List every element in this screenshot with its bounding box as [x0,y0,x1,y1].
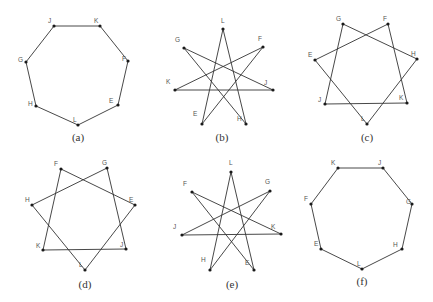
vertex-label: F [183,180,187,187]
vertex-G [268,189,271,192]
vertex-label: L [361,115,365,122]
vertex-label: L [221,17,225,24]
edge-K-J [325,103,407,104]
edge-L-H [32,205,85,270]
panel-caption: (d) [79,278,92,291]
vertex-label: G [336,15,341,22]
vertex-label: K [399,94,404,101]
vertex-F [126,59,129,62]
vertex-label: L [73,116,77,123]
panel-f: KJGHLEF(f) [304,159,414,288]
vertex-H [244,122,247,125]
vertex-label: E [129,196,134,203]
vertex-label: J [378,159,381,166]
vertex-label: H [25,196,30,203]
vertex-J [381,166,384,169]
panel-a: JKFELHG(a) [18,17,130,144]
vertex-E [313,58,316,61]
vertex-H [208,268,211,271]
vertex-G [105,166,108,169]
edge-G-J [26,26,54,62]
vertex-label: J [173,223,176,230]
vertex-K [336,166,339,169]
vertex-L [221,27,224,30]
vertex-label: G [406,198,411,205]
vertex-label: L [229,159,233,166]
vertex-H [34,104,37,107]
vertex-L [229,170,232,173]
vertex-label: F [258,35,262,42]
vertex-F [386,22,389,25]
vertex-H [415,57,418,60]
vertex-label: J [120,241,123,248]
vertex-F [261,45,264,48]
panel-caption: (e) [226,278,239,291]
vertex-K [279,232,282,235]
vertex-H [30,203,33,206]
vertex-label: F [54,160,58,167]
edge-E-F [315,24,388,60]
vertex-label: H [411,50,416,57]
edge-F-E [202,47,263,124]
vertex-label: K [331,159,336,166]
edge-E-L [202,29,223,124]
vertex-label: E [314,240,319,247]
vertex-J [124,247,127,250]
vertex-label: J [318,96,321,103]
vertex-G [182,46,185,49]
vertex-L [360,267,363,270]
edge-G-J [184,48,273,90]
edge-G-J [107,168,126,249]
panel-c: GFHKLJE(c) [308,15,419,144]
edge-J-K [182,234,281,235]
vertex-E [319,247,322,250]
vertex-H [400,247,403,250]
vertex-K [98,24,101,27]
vertex-label: H [237,115,242,122]
figure-canvas: JKFELHG(a) LFJHEKG(b) GFHKLJE(c) FGEJLKH… [0,0,433,302]
edge-F-K [388,24,407,103]
panel-e: LGKEHJF(e) [173,159,283,291]
vertex-label: K [94,17,99,24]
vertex-label: E [308,51,313,58]
edge-L-H [210,172,231,270]
vertex-L [365,122,368,125]
vertex-label: E [109,97,114,104]
edge-G-J [182,191,270,235]
vertex-G [341,22,344,25]
vertex-K [173,88,176,91]
vertex-K [41,248,44,251]
vertex-J [323,102,326,105]
vertex-E [252,268,255,271]
vertex-label: F [304,195,308,202]
edge-H-G [210,191,270,270]
panel-caption: (c) [361,131,374,144]
edge-H-L [367,59,417,124]
vertex-label: K [36,242,41,249]
edge-F-K [311,168,338,204]
panel-caption: (a) [72,131,85,144]
edge-J-K [43,249,126,250]
edge-F-E [61,169,135,205]
vertex-L [83,268,86,271]
edge-E-L [85,205,135,270]
vertex-label: F [383,15,387,22]
vertex-J [52,24,55,27]
vertex-label: E [245,259,250,266]
vertex-J [180,233,183,236]
vertex-label: K [166,78,171,85]
vertex-E [200,122,203,125]
vertex-F [190,190,193,193]
edge-G-H [343,24,417,59]
edge-J-G [325,24,343,104]
vertex-E [133,203,136,206]
vertex-J [271,88,274,91]
edge-H-L [362,249,402,269]
panel-caption: (b) [216,131,229,144]
vertex-label: H [393,241,398,248]
edge-L-H [36,106,78,125]
edge-L-E [321,249,362,269]
vertex-F [309,202,312,205]
vertex-label: G [18,56,23,63]
vertex-label: L [357,260,361,267]
